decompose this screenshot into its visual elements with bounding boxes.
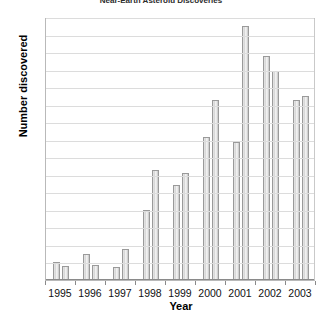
x-axis-tick [195, 281, 196, 285]
x-axis-label: Year [40, 300, 322, 312]
bar [62, 266, 69, 280]
grid-line [46, 123, 314, 124]
bar [122, 249, 129, 280]
chart-title: Near-Earth Asteroid Discoveries [0, 0, 322, 5]
grid-line [46, 263, 314, 264]
x-axis-tick [45, 281, 46, 285]
grid-line [46, 158, 314, 159]
bar [212, 100, 219, 280]
x-axis-tick [75, 281, 76, 285]
x-axis-tick [105, 281, 106, 285]
x-axis-tick [255, 281, 256, 285]
grid-line [46, 88, 314, 89]
x-axis-tick [165, 281, 166, 285]
x-axis-tick-label: 2003 [280, 287, 320, 299]
grid-line [46, 106, 314, 107]
grid-line [46, 176, 314, 177]
grid-line [46, 71, 314, 72]
x-axis-line [46, 279, 314, 280]
bar [173, 185, 180, 280]
chart-container: Near-Earth Asteroid Discoveries Number d… [0, 0, 322, 321]
x-axis-tick [315, 281, 316, 285]
grid-line [46, 53, 314, 54]
x-axis-tick [285, 281, 286, 285]
grid-line [46, 211, 314, 212]
bar-series [46, 19, 314, 280]
bar [92, 265, 99, 280]
grid-line [46, 228, 314, 229]
plot-area [45, 18, 315, 281]
grid-line [46, 18, 314, 19]
grid-line [46, 193, 314, 194]
grid-line [46, 141, 314, 142]
grid-line [46, 246, 314, 247]
x-axis-tick [225, 281, 226, 285]
bar [293, 100, 300, 280]
x-axis-tick [135, 281, 136, 285]
y-axis-label: Number discovered [17, 6, 29, 166]
grid-line [46, 36, 314, 37]
bar [242, 26, 249, 280]
bar [83, 254, 90, 280]
